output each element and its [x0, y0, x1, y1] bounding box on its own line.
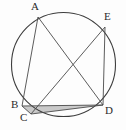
geometry-figure: A E B C D	[0, 0, 126, 130]
vertex-label-B: B	[11, 99, 18, 110]
chord-EC	[31, 27, 105, 114]
vertex-label-E: E	[104, 11, 111, 22]
vertex-label-A: A	[31, 1, 39, 12]
chord-ED	[103, 27, 105, 105]
vertex-label-C: C	[20, 112, 27, 123]
vertex-label-D: D	[105, 105, 113, 116]
chord-AD	[38, 17, 103, 105]
